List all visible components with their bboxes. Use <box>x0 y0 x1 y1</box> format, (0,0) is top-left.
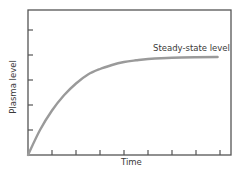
plasma-level-curve <box>28 57 218 155</box>
y-axis-label: Plasma level <box>8 60 18 114</box>
x-axis-label: Time <box>120 157 142 167</box>
x-axis-ticks <box>52 150 220 155</box>
plot-frame <box>28 10 231 155</box>
plasma-level-chart: Steady-state level Time Plasma level <box>0 0 238 176</box>
y-axis-ticks <box>28 30 33 130</box>
steady-state-annotation: Steady-state level <box>153 43 230 53</box>
